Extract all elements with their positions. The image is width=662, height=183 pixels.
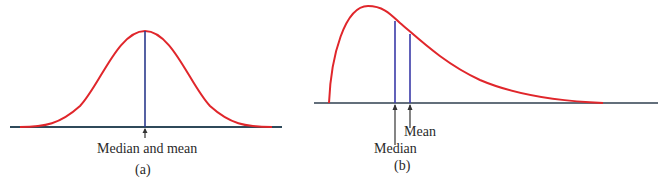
panel-b-caption: (b) xyxy=(394,158,410,174)
panel-b-mean-label: Mean xyxy=(404,124,436,140)
panel-a-arrow-icon xyxy=(143,128,148,138)
panel-b-median-label: Median xyxy=(374,141,417,157)
panel-a-normal-curve xyxy=(20,31,272,127)
panel-a-symmetric xyxy=(10,31,282,138)
panel-a-median-mean-label: Median and mean xyxy=(97,141,197,157)
panel-a-caption: (a) xyxy=(135,162,151,178)
panel-b-skewed xyxy=(314,6,658,145)
panel-b-median-arrow-icon xyxy=(393,104,398,145)
panel-b-skewed-curve xyxy=(329,6,603,103)
